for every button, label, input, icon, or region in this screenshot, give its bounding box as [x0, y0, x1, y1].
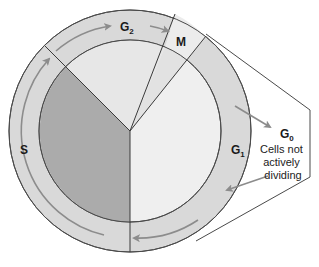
- label-s: S: [20, 143, 28, 157]
- label-m: M: [176, 35, 186, 49]
- g0-description: Cells not actively dividing: [260, 143, 306, 181]
- cell-cycle-diagram: G2 M G1 S G0 Cells not actively dividing: [0, 0, 319, 267]
